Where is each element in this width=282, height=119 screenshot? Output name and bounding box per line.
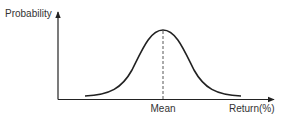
y-axis-label: Probability <box>5 8 52 19</box>
mean-label: Mean <box>150 103 175 114</box>
distribution-diagram: Probability Mean Return(%) <box>0 0 282 119</box>
x-axis-label: Return(%) <box>229 103 275 114</box>
